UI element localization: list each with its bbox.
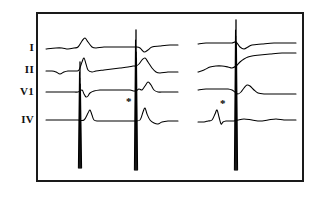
ecg-waveform-group <box>46 38 296 124</box>
ecg-trace-i-left <box>46 38 178 52</box>
ecg-trace-v1-left <box>46 82 178 97</box>
ecg-trace-iv-right <box>198 110 296 124</box>
pacing-spike-1-artifact-2 <box>79 78 80 168</box>
pacing-spike-2-artifact-2 <box>135 46 136 170</box>
ecg-trace-v1-right <box>198 85 296 94</box>
ecg-trace-i-right <box>198 42 296 49</box>
pacing-spike-3-artifact-2 <box>235 36 236 170</box>
ecg-trace-canvas <box>0 0 316 197</box>
ecg-trace-ii-right <box>198 53 296 72</box>
ecg-trace-iv-left <box>46 108 178 124</box>
ecg-trace-ii-left <box>46 58 178 74</box>
ecg-figure: I II V1 IV * * <box>0 0 316 197</box>
